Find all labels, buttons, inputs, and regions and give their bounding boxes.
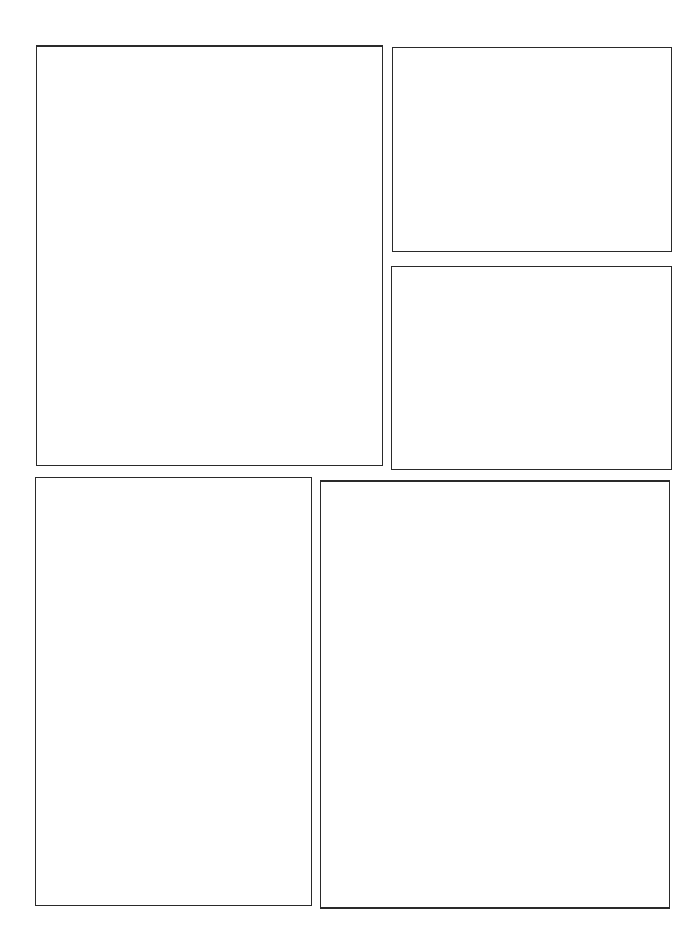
panel-2-top-right (392, 47, 672, 252)
panel-3-middle-right (391, 266, 672, 470)
panel-5-bottom-right (320, 480, 670, 909)
panel-4-bottom-left (35, 477, 312, 906)
panel-1-large-top-left (36, 45, 383, 466)
comic-page (0, 0, 699, 941)
